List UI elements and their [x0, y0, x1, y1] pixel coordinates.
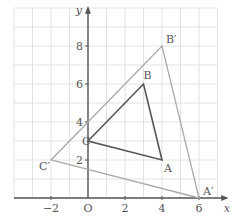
vertex-label-C: C: [82, 135, 90, 148]
vertex-label-A-prime: A′: [202, 185, 214, 198]
diagram-svg: −22462468OxyABCA′B′C′: [0, 0, 246, 223]
vertex-label-B: B: [144, 69, 152, 82]
vertex-label-C-prime: C′: [39, 160, 50, 173]
y-tick-label: 8: [76, 40, 83, 53]
x-tick-label: 2: [122, 202, 129, 215]
y-tick-label: 6: [76, 78, 83, 91]
x-tick-label: 6: [196, 202, 203, 215]
vertex-label-B-prime: B′: [166, 33, 177, 46]
x-axis-arrow-icon: [221, 195, 228, 201]
y-tick-label: 4: [76, 116, 83, 129]
y-tick-label: 2: [76, 154, 83, 167]
y-axis-arrow-icon: [85, 6, 91, 14]
origin-label: O: [83, 202, 92, 215]
coordinate-diagram: −22462468OxyABCA′B′C′: [0, 0, 246, 223]
labels: −22462468OxyABCA′B′C′: [39, 4, 231, 215]
y-axis-label: y: [75, 4, 83, 17]
x-axis-label: x: [224, 202, 231, 215]
vertex-label-A: A: [163, 162, 173, 175]
x-tick-label: −2: [43, 202, 59, 215]
x-tick-label: 4: [159, 202, 166, 215]
